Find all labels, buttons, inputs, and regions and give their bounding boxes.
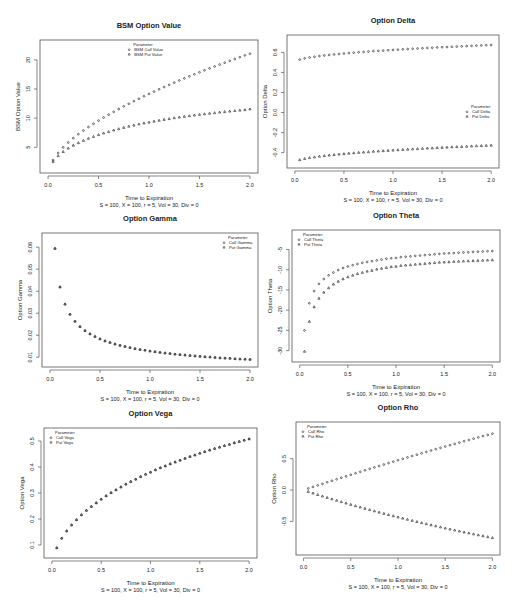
legend-entry: Put Delta — [472, 114, 490, 119]
series-put-delta — [299, 144, 493, 161]
y-axis: 5101520 — [25, 57, 37, 149]
y-tick-label: 0.2 — [29, 515, 35, 523]
x-axis-label: Time to Expiration — [125, 195, 173, 201]
y-tick-label: 0.1 — [29, 541, 35, 549]
series-put-gamma — [54, 247, 251, 360]
x-tick-label: 1.5 — [438, 177, 446, 183]
y-tick-label: 0.03 — [27, 308, 33, 319]
plot-frame — [44, 428, 257, 558]
legend-entry: Put Rho — [308, 434, 324, 439]
chart-bsm: BSM Option Value0.00.51.01.52.0Time to E… — [15, 21, 258, 208]
legend-circle-marker — [50, 437, 52, 439]
legend-circle-marker — [128, 49, 130, 51]
x-tick-label: 1.5 — [441, 564, 449, 570]
legend-entry: Put Gamma — [229, 245, 252, 250]
x-tick-label: 2.0 — [246, 182, 254, 188]
chart-title: BSM Option Value — [117, 21, 182, 30]
x-tick-label: 1.0 — [146, 376, 154, 382]
y-tick-label: -10 — [277, 266, 283, 274]
legend-entry: Put Theta — [304, 242, 323, 247]
y-tick-label: 15 — [25, 86, 31, 92]
series-call-theta — [304, 250, 494, 331]
x-tick-label: 1.0 — [389, 177, 397, 183]
x-tick-label: 2.0 — [487, 177, 495, 183]
x-axis: 0.00.51.01.52.0 — [46, 370, 254, 382]
x-tick-label: 1.5 — [196, 376, 204, 382]
plot-frame — [287, 35, 499, 168]
chart-subtitle: S = 100, X = 100, r = 5, Vol = 30, Div =… — [349, 584, 448, 590]
y-tick-label: 0.0 — [272, 109, 278, 117]
legend-circle-marker — [223, 242, 225, 244]
x-tick-label: 1.0 — [145, 182, 153, 188]
x-axis-label: Time to Expiration — [369, 190, 417, 196]
x-tick-label: 1.0 — [392, 371, 400, 377]
x-tick-label: 1.0 — [147, 567, 155, 573]
legend-triangle-marker — [466, 115, 468, 117]
x-axis: 0.00.51.01.52.0 — [44, 176, 254, 188]
x-tick-label: 1.0 — [394, 564, 402, 570]
chart-theta: Option Theta0.00.51.01.52.0Time to Expir… — [267, 211, 500, 397]
x-axis-label: Time to Expiration — [372, 384, 420, 390]
x-tick-label: 2.0 — [245, 567, 253, 573]
chart-subtitle: S = 100, X = 100, r = 5, Vol = 30, Div =… — [101, 396, 200, 402]
charts-canvas: BSM Option Value0.00.51.01.52.0Time to E… — [0, 0, 519, 604]
series-put-rho — [307, 490, 493, 538]
chart-subtitle: S = 100, X = 100, r = 5, Vol = 30, Div =… — [101, 587, 200, 593]
legend: ParameterCall ThetaPut Theta — [298, 232, 324, 247]
x-axis: 0.00.51.01.52.0 — [300, 558, 497, 570]
chart-gamma: Option Gamma0.00.51.01.52.0Time to Expir… — [17, 214, 258, 402]
plot-frame — [296, 422, 500, 555]
series-call-gamma — [54, 248, 251, 361]
legend: ParameterCall RhoPut Rho — [302, 424, 327, 439]
y-tick-label: -30 — [277, 347, 283, 355]
x-tick-label: 2.0 — [246, 376, 254, 382]
legend-entry: Put Vega — [56, 440, 74, 445]
plot-frame — [40, 40, 258, 173]
x-tick-label: 0.5 — [344, 371, 352, 377]
x-axis-label: Time to Expiration — [126, 580, 174, 586]
chart-title: Option Vega — [129, 409, 174, 418]
y-tick-label: 0.2 — [272, 89, 278, 97]
y-tick-label: 0.6 — [272, 49, 278, 57]
y-tick-label: -25 — [277, 326, 283, 334]
y-tick-label: 0.3 — [29, 489, 35, 497]
x-tick-label: 1.5 — [196, 182, 204, 188]
y-axis: 0.10.20.30.40.5 — [29, 437, 41, 549]
y-tick-label: 0.5 — [29, 437, 35, 445]
y-tick-label: -0.2 — [272, 128, 278, 137]
legend: ParameterCall VegaPut Vega — [50, 430, 75, 445]
legend-circle-marker — [466, 111, 468, 113]
x-tick-label: 2.0 — [488, 371, 496, 377]
y-tick-label: 0.02 — [27, 330, 33, 341]
legend-triangle-marker — [223, 246, 225, 248]
x-tick-label: 1.5 — [440, 371, 448, 377]
x-axis: 0.00.51.01.52.0 — [296, 365, 496, 377]
x-tick-label: 0.5 — [97, 567, 105, 573]
y-tick-label: 0.04 — [27, 286, 33, 297]
plot-frame — [292, 230, 500, 362]
x-axis-label: Time to Expiration — [126, 389, 174, 395]
series-call-delta — [299, 44, 492, 60]
series-bsm-put-value — [52, 108, 251, 162]
y-tick-label: -15 — [277, 286, 283, 294]
chart-vega: Option Vega0.00.51.01.52.0Time to Expira… — [19, 409, 257, 593]
x-axis-label: Time to Expiration — [374, 577, 422, 583]
chart-title: Option Delta — [371, 16, 416, 25]
x-tick-label: 0.0 — [44, 182, 52, 188]
y-tick-label: 10 — [25, 115, 31, 121]
x-tick-label: 0.0 — [300, 564, 308, 570]
y-tick-label: 5 — [25, 146, 31, 149]
legend-circle-marker — [302, 431, 304, 433]
y-tick-label: -0.5 — [281, 517, 287, 526]
x-tick-label: 1.5 — [196, 567, 204, 573]
chart-title: Option Theta — [373, 211, 420, 220]
legend-circle-marker — [298, 239, 300, 241]
chart-subtitle: S = 100, X = 100, r = 5, Vol = 30, Div =… — [347, 391, 446, 397]
y-axis: 0.010.020.030.040.050.06 — [27, 242, 39, 363]
x-tick-label: 0.5 — [340, 177, 348, 183]
y-axis-label: Option Rho — [271, 473, 277, 504]
legend-triangle-marker — [298, 243, 300, 245]
x-tick-label: 0.0 — [46, 376, 54, 382]
chart-subtitle: S = 100, X = 100, r = 5, Vol = 30, Div =… — [100, 202, 199, 208]
x-tick-label: 0.5 — [96, 376, 104, 382]
